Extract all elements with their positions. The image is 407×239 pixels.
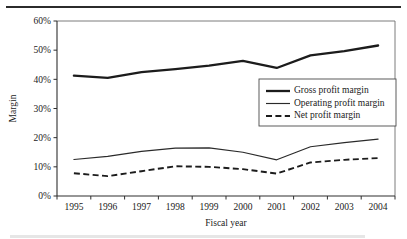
y-axis-tick-label: 20% [34,133,52,143]
x-axis-tick-label: 2004 [369,202,388,212]
x-axis-title: Fiscal year [205,218,247,228]
x-axis-tick-label: 2003 [335,202,354,212]
y-axis-tick-group: 0%10%20%30%40%50%60% [34,16,57,201]
series-line-gross-profit-margin [74,46,378,78]
y-axis-title: Margin [8,94,18,122]
x-axis-tick-label: 2000 [233,202,252,212]
x-axis-tick-label: 1996 [98,202,117,212]
legend-label: Operating profit margin [294,98,385,108]
y-axis-tick-label: 60% [34,16,52,26]
figure-container: 0%10%20%30%40%50%60% 1995199619971998199… [0,0,407,239]
y-axis-tick-label: 0% [38,191,51,201]
x-axis-tick-label: 2002 [301,202,320,212]
y-axis-tick-label: 10% [34,162,52,172]
x-axis-tick-label: 2001 [267,202,286,212]
x-axis-tick-label: 1999 [200,202,219,212]
y-axis-tick-label: 50% [34,45,52,55]
chart-legend: Gross profit marginOperating profit marg… [259,79,396,126]
x-axis-tick-label: 1998 [166,202,185,212]
series-line-operating-profit-margin [74,139,378,160]
legend-label: Net profit margin [294,110,361,120]
y-axis-tick-label: 40% [34,75,52,85]
series-line-net-profit-margin [74,158,378,176]
x-axis-tick-label: 1997 [132,202,151,212]
x-axis-tick-group: 1995199619971998199920002001200220032004 [57,196,395,212]
y-axis-tick-label: 30% [34,104,52,114]
legend-label: Gross profit margin [294,85,369,95]
line-chart: 0%10%20%30%40%50%60% 1995199619971998199… [0,0,407,239]
x-axis-tick-label: 1995 [64,202,83,212]
